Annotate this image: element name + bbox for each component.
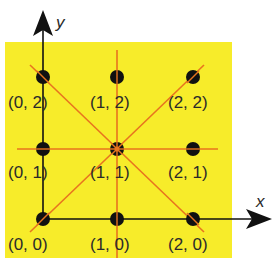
y-axis-label: y xyxy=(55,13,66,32)
lattice-diagram: y x (0, 2) (1, 2) (2, 2) xyxy=(0,0,276,263)
label-2-1: (2, 1) xyxy=(168,163,208,182)
center-marker xyxy=(115,147,120,152)
label-0-2: (0, 2) xyxy=(8,93,48,112)
x-axis-label: x xyxy=(255,192,265,211)
label-0-1: (0, 1) xyxy=(8,163,48,182)
label-1-2: (1, 2) xyxy=(90,93,130,112)
label-0-0: (0, 0) xyxy=(8,235,48,254)
label-1-1: (1, 1) xyxy=(90,163,130,182)
label-2-0: (2, 0) xyxy=(168,235,208,254)
label-1-0: (1, 0) xyxy=(90,235,130,254)
label-2-2: (2, 2) xyxy=(168,93,208,112)
